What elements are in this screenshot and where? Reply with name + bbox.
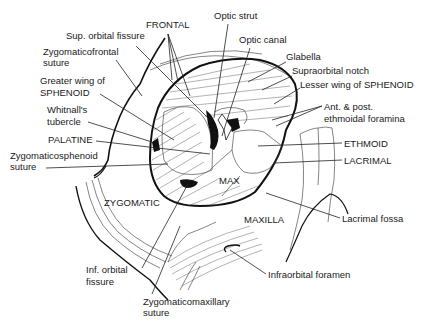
orbit-illustration: FRONTAL Sup. orbital fissure Zygomaticof… [0, 0, 424, 321]
label-lacrimal: LACRIMAL [344, 155, 392, 166]
greater-wing-plate [162, 107, 213, 175]
label-zygomaticofrontal-suture: Zygomaticofrontal [43, 46, 119, 57]
label-whitnalls-tubercle: Whitnall's [47, 104, 88, 115]
label-lacrimal-fossa: Lacrimal fossa [342, 213, 404, 224]
label-max: MAX [219, 175, 240, 186]
orbit-anatomy-diagram: FRONTAL Sup. orbital fissure Zygomaticof… [0, 0, 424, 321]
lateral-wall-hatching [152, 108, 258, 205]
label-greater-wing: Greater wing of [40, 75, 105, 86]
labels: FRONTAL Sup. orbital fissure Zygomaticof… [10, 10, 414, 318]
label-optic-canal: Optic canal [239, 34, 287, 45]
label-greater-wing-line2: SPHENOID [40, 87, 90, 98]
label-ethmoid: ETHMOID [344, 138, 388, 149]
label-maxilla: MAXILLA [244, 214, 285, 225]
lacrimal-fossa-curve [286, 194, 348, 262]
label-zygomaticomaxillary-suture: Zygomaticomaxillary [143, 296, 230, 307]
nasal-lines [290, 127, 335, 250]
label-lesser-wing-sphenoid: Lesser wing of SPHENOID [300, 79, 414, 90]
label-supraorbital-notch: Supraorbital notch [292, 65, 369, 76]
maxilla-hatching [168, 226, 262, 290]
label-zygomatic: ZYGOMATIC [104, 197, 160, 208]
label-zygomaticofrontal-suture-line2: suture [43, 57, 69, 68]
label-zygomaticosphenoid-suture: Zygomaticosphenoid [10, 150, 98, 161]
label-zygomaticomaxillary-suture-line2: suture [143, 307, 169, 318]
label-palatine: PALATINE [48, 134, 93, 145]
medial-wall [210, 130, 282, 196]
label-sup-orbital-fissure: Sup. orbital fissure [66, 30, 145, 41]
label-ethmoidal-foramina: Ant. & post. [324, 101, 373, 112]
label-inf-orbital-fissure: Inf. orbital [86, 264, 128, 275]
label-inf-orbital-fissure-line2: fissure [86, 276, 114, 287]
label-infraorbital-foramen: Infraorbital foramen [268, 269, 350, 280]
label-optic-strut: Optic strut [214, 10, 258, 21]
label-whitnalls-tubercle-line2: tubercle [47, 116, 81, 127]
label-ethmoidal-foramina-line2: ethmoidal foramina [324, 113, 406, 124]
label-frontal: FRONTAL [146, 19, 190, 30]
label-glabella: Glabella [286, 51, 322, 62]
label-zygomaticosphenoid-suture-line2: suture [10, 161, 36, 172]
